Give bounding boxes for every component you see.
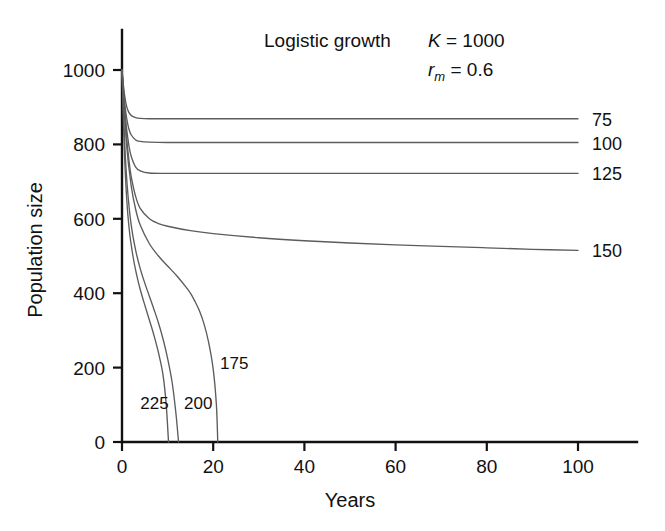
x-tick-label-0: 0 bbox=[117, 456, 128, 477]
series-label-200: 200 bbox=[184, 394, 212, 413]
y-axis-title: Population size bbox=[24, 182, 46, 318]
x-tick-label-20: 20 bbox=[203, 456, 224, 477]
curve-150 bbox=[122, 70, 578, 250]
chart-title: Logistic growth bbox=[264, 30, 391, 51]
series-label-175: 175 bbox=[220, 354, 248, 373]
x-tick-label-60: 60 bbox=[385, 456, 406, 477]
series-label-150: 150 bbox=[592, 241, 622, 261]
series-label-75: 75 bbox=[592, 110, 612, 130]
x-tick-label-80: 80 bbox=[476, 456, 497, 477]
curve-100 bbox=[122, 70, 578, 143]
curves-group bbox=[122, 70, 578, 442]
series-label-225: 225 bbox=[140, 394, 168, 413]
x-tick-label-100: 100 bbox=[562, 456, 594, 477]
y-tick-label-400: 400 bbox=[73, 283, 105, 304]
y-tick-label-800: 800 bbox=[73, 134, 105, 155]
y-tick-label-200: 200 bbox=[73, 358, 105, 379]
y-tick-label-600: 600 bbox=[73, 209, 105, 230]
curve-200 bbox=[122, 70, 179, 442]
chart-container: Logistic growth K = 1000 rm = 0.6 020040… bbox=[0, 0, 665, 531]
series-label-125: 125 bbox=[592, 164, 622, 184]
annotation-intrinsic-rate: rm = 0.6 bbox=[428, 59, 493, 84]
x-tick-label-40: 40 bbox=[294, 456, 315, 477]
curve-75 bbox=[122, 70, 578, 119]
annotation-r-value: = 0.6 bbox=[445, 59, 493, 80]
curve-225 bbox=[122, 70, 169, 442]
axes-group bbox=[122, 30, 637, 442]
annotation-K-value: = 1000 bbox=[441, 30, 505, 51]
y-tick-label-1000: 1000 bbox=[63, 60, 105, 81]
x-axis-title: Years bbox=[325, 489, 375, 511]
series-label-100: 100 bbox=[592, 134, 622, 154]
y-tick-label-0: 0 bbox=[94, 432, 105, 453]
logistic-growth-chart: Logistic growth K = 1000 rm = 0.6 020040… bbox=[0, 0, 665, 531]
annotation-carrying-capacity: K = 1000 bbox=[428, 30, 505, 51]
curve-125 bbox=[122, 70, 578, 173]
annotation-r-subscript: m bbox=[434, 69, 445, 84]
ticks-group: 02004006008001000020406080100 bbox=[63, 60, 594, 477]
